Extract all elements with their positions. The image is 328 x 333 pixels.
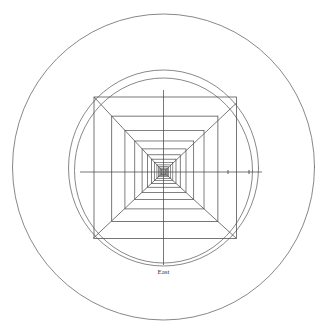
east-axis-label: East xyxy=(157,268,169,276)
figure-canvas: East xyxy=(0,0,328,333)
geometric-perspective-diagram: East xyxy=(0,0,328,333)
